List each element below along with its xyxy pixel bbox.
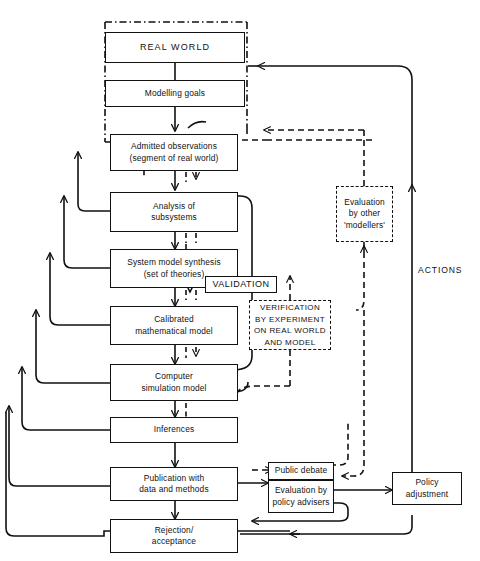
node-label-line2: simulation model [141,383,206,395]
node-evaluation-by-other-modellers[interactable]: Evaluation by other 'modellers' [336,186,393,242]
node-label-line2: adjustment [406,489,448,501]
node-label-line2: policy advisers [272,497,329,509]
node-label-line1: Rejection/ [155,525,194,537]
diagram-canvas: REAL WORLD Modelling goals Admitted obse… [0,0,480,561]
node-label-line2: (segment of real world) [129,153,218,165]
node-inferences[interactable]: Inferences [110,417,238,443]
node-label-line3: 'modellers' [344,220,385,232]
node-label-line2: BY EXPERIMENT [255,314,325,326]
node-label-line1: Evaluation [344,197,385,209]
node-verification-by-experiment[interactable]: VERIFICATION BY EXPERIMENT ON REAL WORLD… [249,300,331,350]
node-label-line2: data and methods [139,484,208,496]
node-label: REAL WORLD [140,42,210,54]
node-publication[interactable]: Publication with data and methods [110,467,238,501]
node-label-line1: VERIFICATION [260,302,320,314]
node-label-line1: Calibrated [154,314,194,326]
node-policy-adjustment[interactable]: Policy adjustment [392,472,462,505]
node-label-line1: Policy [415,477,438,489]
node-label: Modelling goals [145,88,205,100]
node-label-line1: Computer [155,371,193,383]
tag-validation[interactable]: VALIDATION [205,276,277,293]
node-label-line4: AND MODEL [264,337,315,349]
node-label: Inferences [154,424,195,436]
node-label: Public debate [275,465,328,477]
node-public-debate[interactable]: Public debate [268,462,334,480]
node-label-line2: acceptance [152,536,196,548]
node-label-line2: by other [349,208,380,220]
node-label-line1: Analysis of [153,201,195,213]
tag-label: VALIDATION [212,279,269,291]
node-evaluation-by-policy-advisers[interactable]: Evaluation by policy advisers [268,480,334,513]
node-real-world[interactable]: REAL WORLD [105,32,245,63]
node-label-line3: ON REAL WORLD [254,325,326,337]
node-analysis-of-subsystems[interactable]: Analysis of subsystems [110,192,238,232]
node-computer-simulation-model[interactable]: Computer simulation model [110,364,238,401]
node-label-line2: subsystems [151,212,197,224]
node-label-line2: (set of theories) [144,269,205,281]
edge-label-actions: ACTIONS [418,265,463,275]
node-admitted-observations[interactable]: Admitted observations (segment of real w… [110,134,238,171]
node-rejection-acceptance[interactable]: Rejection/ acceptance [110,519,238,553]
node-label-line1: Publication with [144,473,205,485]
edge-label-text: ACTIONS [418,265,463,275]
node-modelling-goals[interactable]: Modelling goals [105,80,245,107]
node-calibrated-mathematical-model[interactable]: Calibrated mathematical model [110,306,238,345]
node-label-line2: mathematical model [135,326,213,338]
node-label-line1: System model synthesis [127,257,221,269]
node-label-line1: Evaluation by [275,485,327,497]
node-label-line1: Admitted observations [131,141,217,153]
